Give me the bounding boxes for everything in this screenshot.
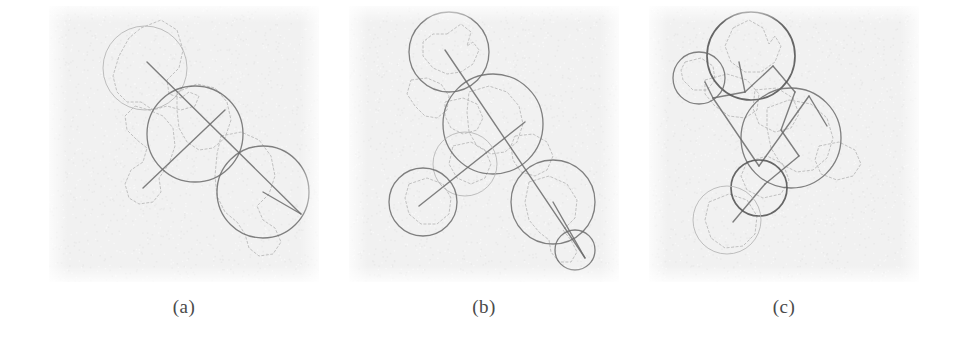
panel-c-image bbox=[649, 6, 919, 282]
figure-panel-a: (a) bbox=[49, 6, 319, 318]
panel-c-caption: (c) bbox=[649, 296, 919, 318]
panel-a-drawing bbox=[49, 6, 319, 282]
panel-a-image bbox=[49, 6, 319, 282]
panel-b-caption: (b) bbox=[349, 296, 619, 318]
figure-panel-group: (a) (b) (c) bbox=[0, 0, 968, 339]
panel-c-drawing bbox=[649, 6, 919, 282]
panel-b-image bbox=[349, 6, 619, 282]
panel-b-drawing bbox=[349, 6, 619, 282]
figure-panel-b: (b) bbox=[349, 6, 619, 318]
panel-a-caption: (a) bbox=[49, 296, 319, 318]
figure-panel-c: (c) bbox=[649, 6, 919, 318]
